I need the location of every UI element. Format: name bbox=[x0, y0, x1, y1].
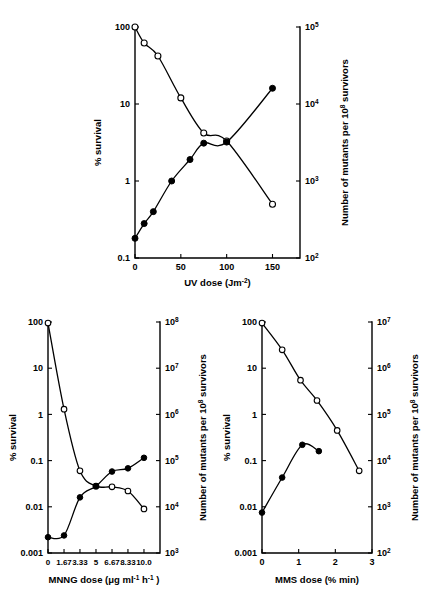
mnng-panel-point-closed bbox=[45, 534, 51, 540]
mms-panel-yticklabel-left: 100 bbox=[242, 317, 257, 327]
mms-panel-point-closed bbox=[259, 510, 265, 516]
mms-panel-yticklabel-right: 104 bbox=[377, 454, 391, 466]
mnng-panel-point-open bbox=[141, 506, 147, 512]
mms-panel-xticklabel: 1 bbox=[296, 557, 301, 567]
uv-panel-xticklabel: 100 bbox=[219, 262, 234, 272]
mms-panel-yticklabel-left: 0.001 bbox=[234, 548, 257, 558]
uv-panel-yticklabel-right: 103 bbox=[305, 175, 319, 187]
uv-panel-xlabel: UV dose (Jm-2) bbox=[184, 277, 251, 289]
mms-panel-point-open bbox=[259, 320, 265, 326]
uv-panel-point-closed bbox=[201, 140, 207, 146]
mnng-panel-yticklabel-left: 100 bbox=[28, 317, 43, 327]
figure-container: 0.1110100102103104105050100150% survival… bbox=[0, 0, 436, 597]
mnng-panel-yticklabel-right: 105 bbox=[165, 454, 179, 466]
mms-panel-axis-frame bbox=[262, 322, 372, 553]
uv-panel-yticklabel-right: 105 bbox=[305, 21, 319, 33]
uv-panel-point-open bbox=[141, 40, 147, 46]
mnng-panel-point-open bbox=[77, 468, 83, 474]
mms-panel-yticklabel-right: 106 bbox=[377, 362, 391, 374]
mnng-panel-xticklabel: 10.0 bbox=[136, 558, 152, 567]
uv-panel-point-open bbox=[132, 24, 138, 30]
mms-panel-point-open bbox=[298, 377, 304, 383]
uv-panel-yticklabel-left: 0.1 bbox=[117, 253, 130, 263]
uv-panel-curve-1 bbox=[135, 88, 273, 238]
mms-panel-xticklabel: 0 bbox=[259, 557, 264, 567]
mnng-panel-yticklabel-right: 106 bbox=[165, 408, 179, 420]
uv-panel-yticklabel-left: 1 bbox=[125, 176, 130, 186]
mnng-panel-xticklabel: 5 bbox=[94, 558, 99, 567]
mnng-panel: 0.0010.010.111010010310410510610710801.6… bbox=[7, 316, 208, 585]
mms-panel: 0.0010.010.11101001021031041051061070123… bbox=[221, 316, 420, 585]
uv-panel-point-closed bbox=[270, 85, 276, 91]
uv-panel-axis-frame bbox=[135, 27, 300, 258]
mnng-panel-yticklabel-right: 108 bbox=[165, 316, 179, 328]
mms-panel-yticklabel-left: 0.1 bbox=[244, 456, 257, 466]
mms-panel-point-open bbox=[279, 347, 285, 353]
mms-panel-xticklabel: 2 bbox=[333, 557, 338, 567]
uv-panel-point-open bbox=[201, 130, 207, 136]
uv-panel-ylabel-right: Number of mutants per 108 survivors bbox=[339, 59, 351, 226]
mnng-panel-point-closed bbox=[109, 469, 115, 475]
mnng-panel-curve-0 bbox=[48, 323, 144, 509]
mnng-panel-ylabel-left: % survival bbox=[7, 414, 18, 461]
mnng-panel-yticklabel-left: 0.1 bbox=[30, 456, 43, 466]
mms-panel-xticklabel: 3 bbox=[369, 557, 374, 567]
uv-panel-point-closed bbox=[224, 139, 230, 145]
uv-panel-xticklabel: 0 bbox=[132, 262, 137, 272]
mms-panel-point-open bbox=[314, 398, 320, 404]
mnng-panel-yticklabel-left: 0.01 bbox=[25, 502, 43, 512]
mnng-panel-point-closed bbox=[61, 533, 67, 539]
mms-panel-point-open bbox=[334, 428, 340, 434]
mms-panel-point-closed bbox=[316, 448, 322, 454]
mnng-panel-yticklabel-right: 104 bbox=[165, 501, 179, 513]
mnng-panel-xticklabel: 0 bbox=[46, 558, 51, 567]
mms-panel-point-open bbox=[356, 468, 362, 474]
uv-panel-yticklabel-left: 100 bbox=[115, 22, 130, 32]
mnng-panel-yticklabel-left: 1 bbox=[38, 410, 43, 420]
uv-panel-point-closed bbox=[141, 221, 147, 227]
mnng-panel-yticklabel-left: 10 bbox=[33, 363, 43, 373]
mnng-panel-point-open bbox=[109, 484, 115, 490]
uv-panel-point-closed bbox=[150, 209, 156, 215]
mnng-panel-xticklabel: 3.33 bbox=[72, 558, 88, 567]
mnng-panel-point-closed bbox=[93, 483, 99, 489]
uv-panel-point-closed bbox=[187, 157, 193, 163]
mnng-panel-point-closed bbox=[141, 455, 147, 461]
uv-panel-yticklabel-left: 10 bbox=[120, 99, 130, 109]
uv-panel-xticklabel: 150 bbox=[265, 262, 280, 272]
mms-panel-xlabel: MMS dose (% min) bbox=[275, 574, 359, 585]
mnng-panel-point-open bbox=[61, 406, 67, 412]
mms-panel-curve-1 bbox=[262, 444, 319, 513]
mms-panel-yticklabel-left: 10 bbox=[247, 363, 257, 373]
mnng-panel-point-open bbox=[45, 320, 51, 326]
mnng-panel-point-open bbox=[125, 488, 131, 494]
mnng-panel-point-closed bbox=[77, 495, 83, 501]
mnng-panel-xticklabel: 6.67 bbox=[104, 558, 120, 567]
uv-panel-ylabel-left: % survival bbox=[92, 119, 103, 166]
uv-panel-point-closed bbox=[132, 235, 138, 241]
mnng-panel-xlabel: MNNG dose (μg ml-1 h-1 ) bbox=[49, 574, 160, 586]
mms-panel-point-closed bbox=[300, 442, 306, 448]
mnng-panel-yticklabel-right: 107 bbox=[165, 362, 179, 374]
mms-panel-curve-0 bbox=[262, 323, 359, 471]
uv-panel-yticklabel-right: 102 bbox=[305, 252, 319, 264]
mms-panel-yticklabel-right: 107 bbox=[377, 316, 391, 328]
mnng-panel-axis-frame bbox=[48, 322, 160, 553]
mnng-panel-yticklabel-right: 103 bbox=[165, 547, 179, 559]
mms-panel-yticklabel-right: 103 bbox=[377, 501, 391, 513]
mms-panel-ylabel-right: Number of mutants per 108 survivors bbox=[409, 354, 421, 521]
mnng-panel-ylabel-right: Number of mutants per 108 survivors bbox=[197, 354, 209, 521]
uv-panel-yticklabel-right: 104 bbox=[305, 98, 319, 110]
mms-panel-yticklabel-right: 105 bbox=[377, 408, 391, 420]
uv-panel-point-open bbox=[155, 53, 161, 59]
uv-panel-point-open bbox=[270, 201, 276, 207]
uv-panel-point-closed bbox=[169, 178, 175, 184]
uv-panel-xticklabel: 50 bbox=[176, 262, 186, 272]
mnng-panel-yticklabel-left: 0.001 bbox=[20, 548, 43, 558]
mms-panel-yticklabel-left: 0.01 bbox=[239, 502, 257, 512]
mnng-panel-xticklabel: 1.67 bbox=[56, 558, 72, 567]
uv-panel: 0.1110100102103104105050100150% survival… bbox=[92, 21, 350, 288]
mms-panel-ylabel-left: % survival bbox=[221, 414, 232, 461]
mms-panel-yticklabel-right: 102 bbox=[377, 547, 391, 559]
mms-panel-yticklabel-left: 1 bbox=[252, 410, 257, 420]
